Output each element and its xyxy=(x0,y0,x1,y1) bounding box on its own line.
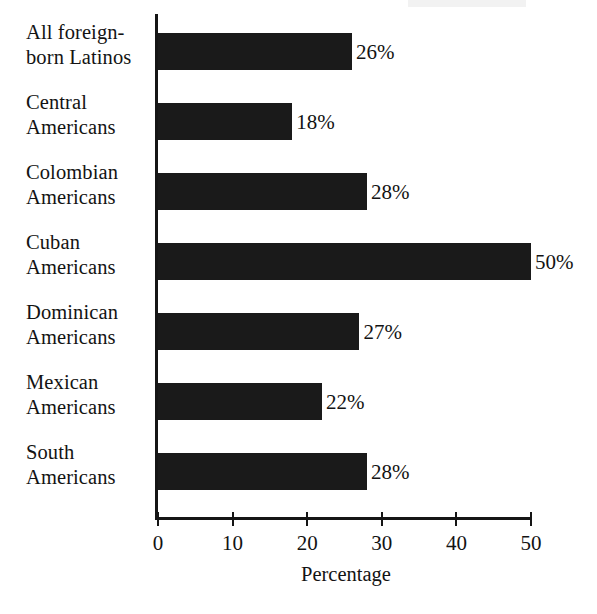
bar-value-label: 18% xyxy=(296,110,335,134)
bar-value-label: 28% xyxy=(371,460,410,484)
x-axis-tick-label: 30 xyxy=(352,531,412,555)
x-axis-tick-label: 50 xyxy=(501,531,561,555)
category-label: All foreign- born Latinos xyxy=(26,20,154,70)
category-label: Dominican Americans xyxy=(26,300,154,350)
x-axis-line xyxy=(155,517,531,520)
bar-value-label: 27% xyxy=(363,320,402,344)
x-axis-tick xyxy=(157,512,159,526)
category-label: Cuban Americans xyxy=(26,230,154,280)
bar-value-label: 22% xyxy=(326,390,365,414)
plot-area: 26% 18% 28% 50% 27% 22% 28% 0 10 20 30 4… xyxy=(158,14,531,517)
category-label: Mexican Americans xyxy=(26,370,154,420)
x-axis-title: Percentage xyxy=(158,563,534,586)
category-label: Central Americans xyxy=(26,90,154,140)
bar-value-label: 50% xyxy=(535,250,574,274)
bar xyxy=(158,383,322,420)
bar-value-label: 28% xyxy=(371,180,410,204)
category-label: Colombian Americans xyxy=(26,160,154,210)
bar xyxy=(158,453,367,490)
bar xyxy=(158,313,359,350)
x-axis-tick xyxy=(232,512,234,526)
bar xyxy=(158,243,531,280)
x-axis-tick-label: 10 xyxy=(203,531,263,555)
bar-chart: All foreign- born Latinos Central Americ… xyxy=(0,0,597,614)
scan-artifact xyxy=(408,0,526,7)
x-axis-tick-label: 20 xyxy=(277,531,337,555)
x-axis-tick xyxy=(530,512,532,526)
x-axis-tick xyxy=(455,512,457,526)
bar-value-label: 26% xyxy=(356,40,395,64)
bar xyxy=(158,33,352,70)
x-axis-tick xyxy=(381,512,383,526)
category-label: South Americans xyxy=(26,440,154,490)
x-axis-tick-label: 40 xyxy=(426,531,486,555)
x-axis-tick-label: 0 xyxy=(128,531,188,555)
bar xyxy=(158,103,292,140)
x-axis-tick xyxy=(306,512,308,526)
bar xyxy=(158,173,367,210)
